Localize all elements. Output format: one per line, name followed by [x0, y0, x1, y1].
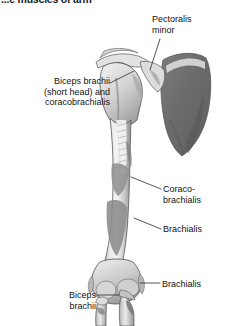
coracoid-process — [140, 61, 165, 92]
radial-head — [96, 297, 108, 305]
label-biceps-brachii-short-head-and-coracobrachialis: Biceps brachii (short head) and coracobr… — [6, 76, 110, 108]
label-biceps-brachii: Biceps brachii — [52, 290, 96, 311]
label-brachialis-lower: Brachialis — [162, 279, 201, 290]
trochlea — [96, 281, 116, 299]
humerus-illustration — [0, 0, 226, 326]
scapula-group — [161, 53, 211, 156]
leader-brachialis-mid — [134, 218, 161, 229]
humerus-illustration-svg — [0, 0, 226, 326]
anatomy-figure-page: ...e muscles of arm — [0, 0, 226, 326]
label-pectoralis-minor: Pectoralis minor — [152, 14, 192, 35]
label-brachialis-middle: Brachialis — [163, 224, 202, 235]
leader-coracobrachialis — [131, 177, 161, 189]
label-coracobrachialis: Coraco- brachialis — [163, 184, 201, 205]
